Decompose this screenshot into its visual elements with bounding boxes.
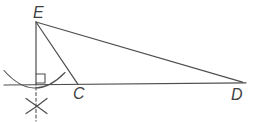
geometry-construction-diagram: E C D <box>0 0 254 122</box>
vertex-label-e: E <box>33 4 44 21</box>
diagram-canvas: E C D <box>0 0 254 122</box>
vertex-label-d: D <box>231 86 243 103</box>
side-ec <box>36 22 78 84</box>
vertex-label-c: C <box>73 85 85 102</box>
right-angle-mark <box>36 74 45 83</box>
side-ed <box>36 22 243 82</box>
